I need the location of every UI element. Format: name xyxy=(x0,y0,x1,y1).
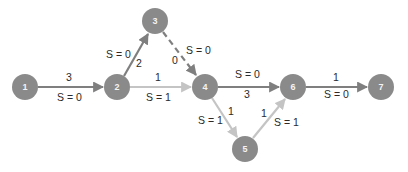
edge-4-6-duration: 3 xyxy=(244,88,250,100)
edge-3-4-duration: 0 xyxy=(172,54,178,66)
edge-6-7: 1 S = 0 xyxy=(306,71,367,100)
edge-6-7-duration: 1 xyxy=(333,71,339,83)
node-3: 3 xyxy=(142,8,168,34)
edge-2-3: 2 S = 0 xyxy=(106,34,148,76)
edge-4-5-slack: S = 1 xyxy=(198,114,223,126)
node-5-label: 5 xyxy=(242,144,247,154)
edge-2-4: 1 S = 1 xyxy=(130,71,191,103)
edge-2-4-duration: 1 xyxy=(155,71,161,83)
node-6: 6 xyxy=(280,74,306,100)
node-4: 4 xyxy=(192,74,218,100)
edge-4-6: S = 0 3 xyxy=(218,68,279,100)
node-4-label: 4 xyxy=(202,82,207,92)
node-3-label: 3 xyxy=(152,16,157,26)
edge-4-5-duration: 1 xyxy=(228,105,234,117)
edge-2-3-slack: S = 0 xyxy=(106,48,131,60)
edge-3-4: 0 S = 0 xyxy=(163,32,211,75)
node-1: 1 xyxy=(12,74,38,100)
node-7: 7 xyxy=(368,74,394,100)
edge-6-7-slack: S = 0 xyxy=(324,88,349,100)
edge-5-6-slack: S = 1 xyxy=(274,116,299,128)
edge-1-2: 3 S = 0 xyxy=(38,71,103,103)
edge-3-4-slack: S = 0 xyxy=(186,44,211,56)
node-5: 5 xyxy=(232,136,258,162)
node-6-label: 6 xyxy=(290,82,295,92)
edge-5-6: 1 S = 1 xyxy=(253,99,299,138)
edge-2-3-duration: 2 xyxy=(136,57,142,69)
edge-5-6-duration: 1 xyxy=(261,107,267,119)
edge-4-6-slack: S = 0 xyxy=(235,68,260,80)
node-2-label: 2 xyxy=(114,82,119,92)
edge-1-2-duration: 3 xyxy=(66,71,72,83)
network-diagram: 3 S = 0 2 S = 0 0 S = 0 1 S = 1 S = 0 3 … xyxy=(0,0,408,172)
edge-1-2-slack: S = 0 xyxy=(57,91,82,103)
node-7-label: 7 xyxy=(378,82,383,92)
edge-4-5: 1 S = 1 xyxy=(198,98,237,137)
node-1-label: 1 xyxy=(22,82,27,92)
node-2: 2 xyxy=(104,74,130,100)
edge-2-4-slack: S = 1 xyxy=(146,91,171,103)
